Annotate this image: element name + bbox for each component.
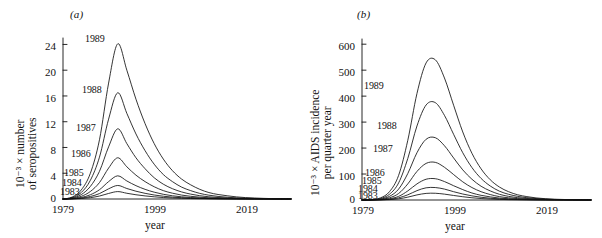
- panel-a-plot: [0, 0, 301, 238]
- figure-two-panel-epidemic-projection: (a) 10⁻³ × number of seropositives 24 20…: [0, 0, 602, 238]
- panel-a: (a) 10⁻³ × number of seropositives 24 20…: [0, 0, 301, 238]
- panel-b: (b) 10⁻³ × AIDS incidence per quarter ye…: [301, 0, 602, 238]
- panel-b-plot: [301, 0, 602, 238]
